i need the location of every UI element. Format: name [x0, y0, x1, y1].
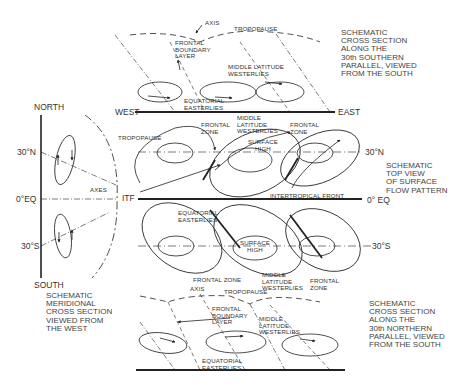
axis-label: AXIS — [205, 20, 220, 27]
axis-label: AXIS — [190, 286, 205, 293]
circulation-cell — [129, 188, 235, 288]
frontal-zone-label: FRONTAL ZONE — [290, 122, 319, 135]
lat-30n-label: 30°N — [17, 147, 36, 157]
tropopause-label: TROPOPAUSE — [224, 289, 268, 296]
caption-southern-cross-section: SCHEMATIC CROSS SECTION ALONG THE 30th S… — [341, 29, 417, 78]
tropopause-label: TROPOPAUSE — [118, 135, 162, 142]
meridional-cell — [52, 213, 74, 259]
frontal-axis-line — [276, 34, 330, 112]
equator-label: 0° EQ — [367, 195, 390, 205]
lat-30n-label: 30°N — [365, 147, 384, 157]
equator-label: 0°EQ — [16, 194, 36, 204]
tropopause-line — [140, 296, 320, 304]
top-cross-section — [115, 25, 335, 112]
circulation-cell — [274, 196, 371, 284]
surface-high-label: SURFACE HIGH — [240, 240, 270, 253]
equatorial-easterlies-label: EQUATORIAL EASTERLIES — [202, 358, 242, 371]
middle-latitude-westerlies-label: MIDDLE LATITUDE WESTERLIES — [262, 272, 303, 292]
middle-latitude-westerlies-label: MIDDLE LATITUDE WESTERLIES — [237, 115, 278, 135]
surface-high-label: SURFACE HIGH — [248, 139, 278, 152]
middle-latitude-westerlies-label: MIDDLE LATITUDE WESTERLIES — [228, 64, 284, 77]
frontal-zone-label: FRONTAL ZONE — [201, 122, 230, 135]
equatorial-easterlies-label: EQUATORIAL EASTERLIES — [184, 98, 224, 111]
frontal-boundary-layer-label: FRONTAL BOUNDARY LAYER — [175, 40, 211, 60]
frontal-axis-line — [115, 35, 175, 112]
eddy-loop — [138, 82, 182, 102]
tropopause-label: TROPOPAUSE — [234, 26, 278, 33]
caption-meridional: SCHEMATIC MERIDIONAL CROSS SECTION VIEWE… — [46, 292, 112, 333]
lat-30s-label: 30°S — [372, 241, 391, 251]
middle-latitude-westerlies-label: MIDDLE LATITUDE WESTERLIES — [259, 316, 300, 336]
meridional-section — [41, 115, 118, 278]
east-label: EAST — [338, 107, 360, 117]
eddy-loop — [138, 330, 188, 356]
tropopause-arc — [85, 115, 117, 278]
frontal-zone-label: FRONTAL ZONE — [193, 277, 241, 284]
surface-high-contour — [157, 143, 193, 163]
frontal-zone-label: FRONTAL ZONE — [310, 278, 339, 291]
caption-top-view: SCHEMATIC TOP VIEW OF SURFACE FLOW PATTE… — [386, 162, 447, 195]
west-label: WEST — [115, 107, 140, 117]
eddy-loop — [206, 331, 266, 353]
itf-label: ITF — [122, 193, 135, 203]
tropopause-line — [130, 31, 320, 42]
frontal-boundary-layer-label: FRONTAL BOUNDARY LAYER — [212, 306, 248, 326]
eddy-loop — [256, 82, 304, 102]
meridional-cell — [51, 134, 79, 187]
equatorial-easterlies-label: EQUATORIAL EASTERLIES — [178, 210, 218, 223]
caption-northern-cross-section: SCHEMATIC CROSS SECTION ALONG THE 30th N… — [369, 300, 445, 349]
axes-label: AXES — [90, 187, 107, 194]
circulation-cell — [272, 118, 368, 197]
intertropical-front-label: INTERTROPICAL FRONT — [270, 193, 344, 200]
north-label: NORTH — [34, 102, 64, 112]
south-label: SOUTH — [34, 280, 64, 290]
lat-30s-label: 30°S — [21, 241, 40, 251]
eddy-loop — [282, 334, 338, 356]
